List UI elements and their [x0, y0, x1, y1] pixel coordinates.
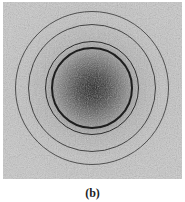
- panel-label: (b): [0, 186, 185, 201]
- diffraction-pattern-image: [3, 2, 182, 179]
- ring-4: [15, 11, 169, 165]
